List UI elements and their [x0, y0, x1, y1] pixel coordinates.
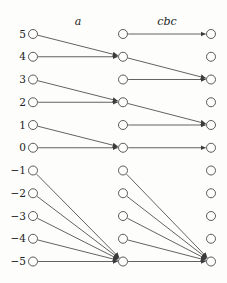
node-left-m2 — [29, 189, 38, 198]
edge-cbc-m2-to-m5 — [127, 196, 207, 258]
node-right-m2 — [207, 189, 216, 198]
column-header-cbc: cbc — [157, 15, 176, 28]
node-middle-5 — [119, 30, 128, 39]
node-left-m1 — [29, 166, 38, 175]
node-right-4 — [207, 52, 216, 61]
node-middle-1 — [119, 121, 128, 130]
node-left-0 — [29, 143, 38, 152]
row-label-2: 2 — [19, 96, 26, 108]
row-label-m1: −1 — [11, 164, 26, 176]
node-right-m1 — [207, 166, 216, 175]
edge-a-3-to-2 — [38, 81, 118, 101]
row-label-4: 4 — [19, 50, 26, 62]
edge-a-5-to-4 — [38, 35, 118, 55]
node-middle-m2 — [119, 189, 128, 198]
node-right-3 — [207, 75, 216, 84]
node-right-2 — [207, 98, 216, 107]
node-left-m3 — [29, 212, 38, 221]
node-right-m5 — [207, 257, 216, 266]
node-right-0 — [207, 143, 216, 152]
row-label-m2: −2 — [11, 187, 26, 199]
node-left-4 — [29, 52, 38, 61]
node-left-1 — [29, 121, 38, 130]
node-left-5 — [29, 30, 38, 39]
node-left-m4 — [29, 234, 38, 243]
node-middle-m1 — [119, 166, 128, 175]
node-right-5 — [207, 30, 216, 39]
node-left-m5 — [29, 257, 38, 266]
node-middle-m3 — [119, 212, 128, 221]
column-header-a: a — [75, 15, 82, 28]
edge-cbc-m4-to-m5 — [128, 240, 206, 260]
edge-a-m3-to-m5 — [38, 218, 119, 259]
node-middle-2 — [119, 98, 128, 107]
node-middle-m5 — [119, 257, 128, 266]
function-mapping-diagram: 543210−1−2−3−4−5acbc — [0, 0, 227, 283]
edge-cbc-m3-to-m5 — [128, 218, 207, 259]
node-middle-0 — [119, 143, 128, 152]
node-left-3 — [29, 75, 38, 84]
row-label-m4: −4 — [11, 232, 27, 244]
edge-cbc-2-to-1 — [128, 104, 206, 124]
edge-cbc-4-to-3 — [128, 58, 206, 78]
node-right-1 — [207, 121, 216, 130]
row-label-0: 0 — [19, 141, 26, 153]
node-left-2 — [29, 98, 38, 107]
row-label-m3: −3 — [11, 210, 26, 222]
row-label-3: 3 — [19, 73, 26, 85]
row-label-1: 1 — [19, 119, 26, 131]
node-middle-4 — [119, 52, 128, 61]
edge-a-m1-to-m5 — [37, 174, 120, 258]
node-right-m4 — [207, 234, 216, 243]
edge-cbc-m1-to-m5 — [127, 174, 208, 258]
diagram-canvas: 543210−1−2−3−4−5acbc — [0, 0, 227, 283]
node-right-m3 — [207, 212, 216, 221]
row-label-5: 5 — [19, 28, 26, 40]
node-middle-m4 — [119, 234, 128, 243]
node-middle-3 — [119, 75, 128, 84]
edge-a-m4-to-m5 — [38, 240, 118, 260]
edge-a-m2-to-m5 — [37, 196, 119, 258]
row-label-m5: −5 — [11, 255, 26, 267]
edge-a-1-to-0 — [38, 126, 118, 146]
